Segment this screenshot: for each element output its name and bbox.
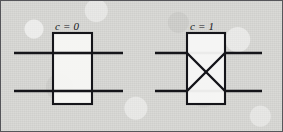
switch-states-figure: c = 0 c = 1 — [0, 0, 283, 132]
switch-cross-state-label: c = 1 — [190, 21, 214, 32]
switch-bar-state-label: c = 0 — [55, 21, 79, 32]
switch-cross-state-graphic — [0, 0, 283, 132]
switch-cross-box — [187, 33, 225, 104]
